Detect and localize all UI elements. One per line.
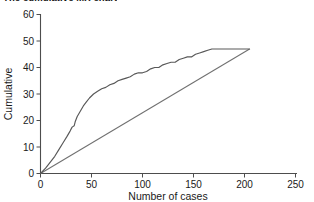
y-tick-label: 50 xyxy=(23,36,35,47)
x-tick-labels: 0 50 100 150 200 250 xyxy=(38,179,305,190)
y-axis-title: Cumulative xyxy=(2,68,14,121)
chart-figure: The cumulative MX chart 0 10 xyxy=(0,0,314,202)
x-tick-label: 250 xyxy=(287,179,304,190)
x-axis-title: Number of cases xyxy=(128,190,207,202)
y-tick-label: 30 xyxy=(23,89,35,100)
y-tick-label: 0 xyxy=(28,168,34,179)
x-tick-label: 0 xyxy=(38,179,44,190)
x-tick-label: 100 xyxy=(134,179,151,190)
y-tick-marks xyxy=(37,15,41,174)
x-tick-label: 150 xyxy=(185,179,202,190)
chart-plot-area: 0 10 20 30 40 50 60 0 50 100 150 200 250… xyxy=(0,0,314,202)
y-tick-label: 10 xyxy=(23,142,35,153)
y-tick-labels: 0 10 20 30 40 50 60 xyxy=(23,9,35,179)
x-tick-label: 200 xyxy=(236,179,253,190)
x-tick-label: 50 xyxy=(86,179,98,190)
y-tick-label: 20 xyxy=(23,115,35,126)
x-tick-marks xyxy=(41,174,296,178)
y-tick-label: 60 xyxy=(23,9,35,20)
reference-diagonal-line xyxy=(41,49,250,174)
y-tick-label: 40 xyxy=(23,62,35,73)
